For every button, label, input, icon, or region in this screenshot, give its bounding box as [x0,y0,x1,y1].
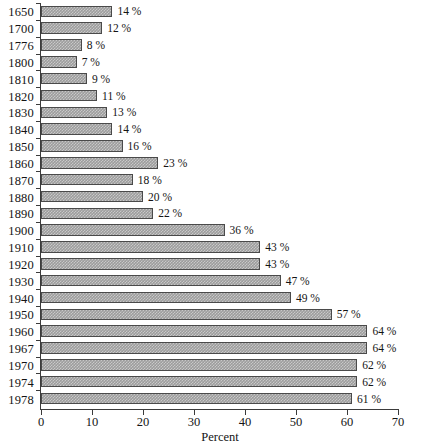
y-axis-tick-label: 1900 [8,225,34,238]
x-axis-tick-label: 0 [38,416,44,429]
bar [41,39,82,51]
bar-value-label: 16 % [128,141,152,153]
y-axis-tick-label: 1960 [8,326,34,339]
bar-value-label: 14 % [117,7,141,19]
y-axis-tick [36,357,41,358]
bar-row: 18109 % [41,71,398,88]
x-axis-title: Percent [0,431,428,444]
y-axis-tick [36,37,41,38]
y-axis-tick-label: 1850 [8,141,34,154]
bar [41,174,133,186]
y-axis-tick [36,256,41,257]
x-axis-tick-label: 50 [290,416,303,429]
bar [41,342,367,354]
y-axis-tick [36,70,41,71]
bar-row: 183013 % [41,105,398,122]
bar-value-label: 49 % [296,293,320,305]
bar [41,309,332,321]
bar [41,107,107,119]
y-axis-tick-label: 1860 [8,158,34,171]
y-axis-tick-label: 1776 [8,40,34,53]
plot-area: 165014 %170012 %17768 %18007 %18109 %182… [41,4,398,408]
bar [41,6,112,18]
bar-value-label: 12 % [107,23,131,35]
y-axis-tick-label: 1970 [8,360,34,373]
bar-value-label: 36 % [230,225,254,237]
bar-value-label: 20 % [148,192,172,204]
y-axis-tick [36,222,41,223]
bar-row: 197462 % [41,374,398,391]
bar-row: 190036 % [41,223,398,240]
y-axis-tick [36,121,41,122]
bar-row: 196064 % [41,324,398,341]
y-axis-tick [36,373,41,374]
bar [41,275,281,287]
bar [41,56,77,68]
bar-value-label: 9 % [92,74,110,86]
bar-row: 187018 % [41,172,398,189]
bar-value-label: 18 % [138,175,162,187]
y-axis-tick-label: 1870 [8,174,34,187]
y-axis-tick [36,272,41,273]
bar-row: 165014 % [41,4,398,21]
bar [41,191,143,203]
bar-value-label: 64 % [372,343,396,355]
y-axis-tick-label: 1650 [8,6,34,19]
bar-row: 182011 % [41,88,398,105]
y-axis-tick-label: 1830 [8,107,34,120]
y-axis-tick-label: 1950 [8,309,34,322]
bar-row: 194049 % [41,290,398,307]
y-axis-tick [36,3,41,4]
bar-value-label: 8 % [87,40,105,52]
bar-row: 188020 % [41,189,398,206]
y-axis-tick-label: 1930 [8,275,34,288]
bar [41,73,87,85]
bar [41,376,357,388]
bar-value-label: 43 % [265,259,289,271]
bar-value-label: 11 % [102,91,126,103]
y-axis-tick-label: 1978 [8,393,34,406]
bar [41,90,97,102]
x-axis-tick-label: 40 [239,416,252,429]
y-axis-tick [36,323,41,324]
bar-row: 193047 % [41,273,398,290]
bar-row: 189022 % [41,206,398,223]
y-axis-tick [36,239,41,240]
bar-value-label: 7 % [82,57,100,69]
bar-value-label: 43 % [265,242,289,254]
y-axis-tick [36,289,41,290]
bar [41,224,225,236]
bar [41,22,102,34]
bar [41,325,367,337]
y-axis-tick-label: 1974 [8,376,34,389]
bar-value-label: 13 % [112,108,136,120]
bar-row: 196764 % [41,341,398,358]
bar-row: 17768 % [41,38,398,55]
bar-row: 18007 % [41,55,398,72]
bar [41,393,352,405]
x-axis-tick-label: 60 [341,416,354,429]
y-axis-tick [36,54,41,55]
y-axis-tick [36,205,41,206]
bar-value-label: 57 % [337,310,361,322]
bar-value-label: 47 % [286,276,310,288]
y-axis-tick [36,188,41,189]
bar [41,208,153,220]
bar-chart: 165014 %170012 %17768 %18007 %18109 %182… [0,0,428,448]
y-axis-tick [36,87,41,88]
bar-value-label: 62 % [362,377,386,389]
y-axis-tick-label: 1840 [8,124,34,137]
y-axis-tick [36,20,41,21]
x-axis-tick-label: 10 [86,416,99,429]
x-axis-tick-label: 30 [188,416,201,429]
bar [41,359,357,371]
bar-row: 184014 % [41,122,398,139]
y-axis-tick-label: 1880 [8,191,34,204]
y-axis-tick [36,138,41,139]
bar-row: 191043 % [41,240,398,257]
bar-row: 197861 % [41,391,398,408]
y-axis-tick [36,171,41,172]
bar-row: 192043 % [41,257,398,274]
x-axis-tick-label: 20 [137,416,150,429]
y-axis-tick-label: 1920 [8,259,34,272]
